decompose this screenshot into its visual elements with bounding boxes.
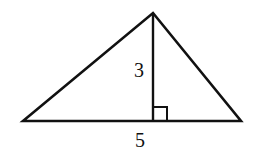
triangle-diagram: 3 5 bbox=[0, 0, 254, 156]
height-label: 3 bbox=[134, 59, 144, 81]
base-label: 5 bbox=[135, 129, 145, 151]
right-angle-marker bbox=[153, 107, 167, 121]
triangle bbox=[23, 13, 241, 121]
